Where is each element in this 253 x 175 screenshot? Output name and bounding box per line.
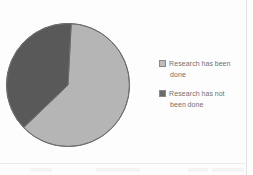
page-artifact <box>96 168 140 172</box>
legend-swatch-research-done <box>159 60 166 67</box>
legend-item-research-done[interactable]: Research has been done <box>159 58 247 80</box>
pie-plot-area <box>6 21 130 149</box>
page-artifact <box>188 168 208 172</box>
legend-label-research-done-line2: done <box>170 69 247 80</box>
legend-label-research-done-line1: Research has been <box>169 58 231 69</box>
pie-svg <box>6 21 130 149</box>
page-artifact <box>212 168 244 172</box>
legend-item-research-not-done[interactable]: Research has not been done <box>159 88 247 110</box>
pie-slices <box>6 23 129 146</box>
page-border-bottom <box>0 163 247 164</box>
legend-label-research-not-done-line1: Research has not <box>169 88 225 99</box>
chart-legend: Research has been done Research has not … <box>159 58 247 118</box>
legend-label-research-not-done-line2: been done <box>170 99 247 110</box>
legend-swatch-research-not-done <box>159 90 166 97</box>
pie-chart-figure: Research has been done Research has not … <box>0 0 253 175</box>
page-artifact <box>30 168 52 172</box>
